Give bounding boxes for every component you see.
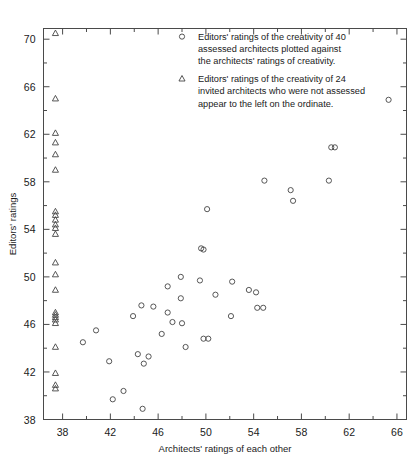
data-point-triangle [52, 30, 58, 36]
legend-marker-triangle [179, 76, 185, 82]
data-point-circle [107, 359, 112, 364]
data-point-circle [110, 397, 115, 402]
data-point-circle [288, 188, 293, 193]
data-point-triangle [52, 259, 58, 265]
x-tick-label: 62 [343, 426, 355, 438]
data-point-circle [204, 207, 209, 212]
data-point-triangle [52, 130, 58, 136]
data-point-triangle [52, 370, 58, 376]
x-tick-label: 42 [105, 426, 117, 438]
data-point-circle [130, 314, 135, 319]
data-point-circle [93, 328, 98, 333]
x-tick-label: 58 [296, 426, 308, 438]
data-point-circle [146, 354, 151, 359]
data-point-triangle [52, 231, 58, 237]
y-tick-label: 62 [24, 128, 36, 140]
plot-svg: 3842465054586266384246505458626670Archit… [0, 0, 419, 454]
data-point-circle [170, 319, 175, 324]
y-tick-label: 38 [24, 414, 36, 426]
y-tick-label: 66 [24, 81, 36, 93]
data-point-circle [159, 331, 164, 336]
data-point-circle [261, 305, 266, 310]
y-tick-label: 54 [24, 223, 36, 235]
data-point-circle [179, 321, 184, 326]
data-point-circle [178, 296, 183, 301]
data-point-triangle [52, 167, 58, 173]
legend-label-assessed: assessed architects plotted against [198, 44, 341, 54]
legend-label-assessed: Editors' ratings of the creativity of 40 [198, 32, 346, 42]
data-point-circle [386, 97, 391, 102]
data-point-circle [135, 352, 140, 357]
data-point-circle [165, 284, 170, 289]
x-tick-label: 46 [152, 426, 164, 438]
data-point-circle [228, 314, 233, 319]
scatter-plot-figure: 3842465054586266384246505458626670Archit… [0, 0, 419, 454]
legend-marker-circle [179, 34, 184, 39]
legend-label-assessed: the architects' ratings of creativity. [198, 56, 335, 66]
data-point-circle [183, 344, 188, 349]
x-tick-label: 66 [391, 426, 403, 438]
y-tick-label: 70 [24, 33, 36, 45]
data-point-circle [246, 287, 251, 292]
data-point-circle [139, 303, 144, 308]
data-point-circle [197, 278, 202, 283]
data-point-triangle [52, 139, 58, 145]
data-point-circle [165, 310, 170, 315]
data-point-circle [80, 340, 85, 345]
data-point-circle [326, 178, 331, 183]
x-axis-title: Architects' ratings of each other [159, 443, 292, 454]
y-tick-label: 50 [24, 271, 36, 283]
data-point-triangle [52, 151, 58, 157]
data-point-triangle [52, 287, 58, 293]
y-tick-label: 42 [24, 366, 36, 378]
data-point-circle [262, 178, 267, 183]
data-point-circle [141, 361, 146, 366]
legend-label-invited: invited architects who were not assessed [198, 86, 365, 96]
data-point-circle [140, 406, 145, 411]
data-point-circle [178, 274, 183, 279]
x-tick-label: 50 [200, 426, 212, 438]
y-tick-label: 46 [24, 318, 36, 330]
data-point-circle [290, 198, 295, 203]
legend-label-invited: Editors' ratings of the creativity of 24 [198, 74, 346, 84]
y-axis-title: Editors' ratings [7, 192, 18, 255]
data-point-triangle [52, 344, 58, 350]
data-point-circle [255, 305, 260, 310]
data-point-circle [230, 279, 235, 284]
data-point-circle [121, 388, 126, 393]
data-point-circle [213, 292, 218, 297]
data-point-circle [151, 304, 156, 309]
data-point-triangle [52, 95, 58, 101]
x-tick-label: 54 [248, 426, 260, 438]
data-point-circle [332, 145, 337, 150]
legend-label-invited: appear to the left on the ordinate. [198, 99, 333, 109]
data-point-triangle [52, 271, 58, 277]
y-tick-label: 58 [24, 176, 36, 188]
data-point-circle [253, 290, 258, 295]
x-tick-label: 38 [57, 426, 69, 438]
